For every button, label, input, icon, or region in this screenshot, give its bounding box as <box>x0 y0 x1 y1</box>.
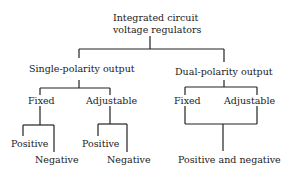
single-fixed-label: Fixed <box>28 96 55 106</box>
single-fixed-negative: Negative <box>35 155 79 165</box>
single-adjustable-negative: Negative <box>107 155 151 165</box>
dual-fixed-label: Fixed <box>174 96 201 106</box>
dual-adjustable-label: Adjustable <box>224 96 275 106</box>
dual-output-label: Positive and negative <box>178 155 281 165</box>
root-label-line2: voltage regulators <box>113 25 201 35</box>
single-adjustable-positive: Positive <box>82 139 120 149</box>
single-polarity-label: Single-polarity output <box>29 64 135 74</box>
single-adjustable-label: Adjustable <box>86 96 137 106</box>
root-label-line1: Integrated circuit <box>113 13 198 23</box>
single-fixed-positive: Positive <box>11 139 49 149</box>
dual-polarity-label: Dual-polarity output <box>175 67 273 77</box>
